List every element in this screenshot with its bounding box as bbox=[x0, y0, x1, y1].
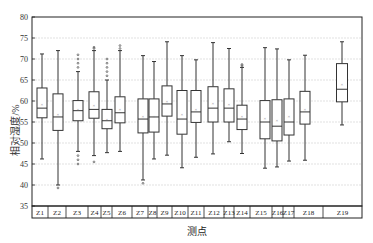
mean-marker-icon: × bbox=[153, 114, 156, 119]
box-plot-chart: ××××××××××××××××××× 35404550556065707580… bbox=[0, 0, 373, 243]
mean-marker-icon: × bbox=[93, 103, 96, 108]
outlier-point bbox=[77, 62, 79, 64]
x-category-label: Z8 bbox=[149, 209, 157, 217]
mean-marker-icon: × bbox=[341, 82, 344, 87]
outlier-point bbox=[241, 64, 243, 66]
x-category-label: Z5 bbox=[103, 209, 111, 217]
mean-marker-icon: × bbox=[304, 107, 307, 112]
y-axis-label: 相对湿度/% bbox=[9, 104, 21, 155]
x-category-label: Z14 bbox=[236, 209, 248, 217]
x-category-label: Z9 bbox=[161, 209, 169, 217]
x-category-label: Z6 bbox=[118, 209, 126, 217]
x-category-label: Z7 bbox=[136, 209, 144, 217]
x-category-label: Z2 bbox=[53, 209, 61, 217]
box-Z18: × bbox=[300, 55, 310, 160]
outlier-point bbox=[77, 67, 79, 69]
mean-marker-icon: × bbox=[166, 99, 169, 104]
outlier-point bbox=[106, 62, 108, 64]
outlier-point bbox=[93, 46, 95, 48]
x-category-label: Z13 bbox=[223, 209, 235, 217]
x-category-label: Z19 bbox=[337, 209, 349, 217]
x-category-label: Z11 bbox=[190, 209, 202, 217]
y-tick-label: 70 bbox=[20, 55, 28, 64]
box-Z8: × bbox=[149, 62, 159, 159]
box-Z14: × bbox=[237, 64, 247, 154]
x-category-label: Z3 bbox=[73, 209, 81, 217]
x-category-label: Z15 bbox=[255, 209, 267, 217]
x-category-label: Z10 bbox=[174, 209, 186, 217]
outlier-point bbox=[142, 182, 144, 184]
outlier-point bbox=[106, 67, 108, 69]
outlier-point bbox=[77, 54, 79, 56]
x-category-label: Z12 bbox=[208, 209, 220, 217]
x-category-label: Z17 bbox=[283, 209, 295, 217]
mean-marker-icon: × bbox=[276, 118, 279, 123]
x-category-label: Z16 bbox=[272, 209, 284, 217]
y-tick-label: 55 bbox=[20, 118, 28, 127]
box-series: ××××××××××××××××××× bbox=[37, 42, 348, 189]
y-tick-label: 35 bbox=[20, 202, 28, 211]
outlier-point bbox=[106, 75, 108, 77]
outlier-point bbox=[119, 45, 121, 47]
mean-marker-icon: × bbox=[106, 117, 109, 122]
outlier-point bbox=[77, 159, 79, 161]
y-tick-label: 40 bbox=[20, 181, 28, 190]
outlier-point bbox=[106, 71, 108, 73]
x-category-label: Z4 bbox=[91, 209, 99, 217]
box-Z4: × bbox=[89, 46, 99, 162]
mean-marker-icon: × bbox=[228, 102, 231, 107]
mean-marker-icon: × bbox=[41, 102, 44, 107]
x-category-table: Z1Z2Z3Z4Z5Z6Z7Z8Z9Z10Z11Z12Z13Z14Z15Z16Z… bbox=[32, 206, 362, 218]
box-Z17: × bbox=[284, 60, 294, 161]
y-tick-label: 50 bbox=[20, 139, 28, 148]
box-Z16: × bbox=[272, 49, 282, 167]
box-Z2: × bbox=[53, 51, 63, 189]
mean-marker-icon: × bbox=[288, 114, 291, 119]
x-category-label: Z1 bbox=[36, 209, 44, 217]
outlier-point bbox=[119, 48, 121, 50]
box-Z6: × bbox=[115, 45, 125, 152]
outlier-point bbox=[77, 155, 79, 157]
box-Z3: × bbox=[73, 54, 83, 165]
y-tick-label: 80 bbox=[20, 13, 28, 22]
mean-marker-icon: × bbox=[119, 107, 122, 112]
mean-marker-icon: × bbox=[77, 107, 80, 112]
mean-marker-icon: × bbox=[142, 114, 145, 119]
outlier-point bbox=[57, 187, 59, 189]
box-Z19: × bbox=[337, 42, 348, 125]
box-Z5: × bbox=[102, 58, 112, 153]
x-axis-label: 测点 bbox=[187, 225, 207, 237]
outlier-point bbox=[93, 161, 95, 163]
mean-marker-icon: × bbox=[57, 112, 60, 117]
mean-marker-icon: × bbox=[195, 107, 198, 112]
y-tick-label: 45 bbox=[20, 160, 28, 169]
mean-marker-icon: × bbox=[181, 112, 184, 117]
mean-marker-icon: × bbox=[264, 116, 267, 121]
y-tick-label: 60 bbox=[20, 97, 28, 106]
box-Z10: × bbox=[177, 56, 187, 168]
mean-marker-icon: × bbox=[212, 101, 215, 106]
box-Z7: × bbox=[138, 56, 148, 185]
y-tick-label: 65 bbox=[20, 76, 28, 85]
mean-marker-icon: × bbox=[241, 114, 244, 119]
x-category-label: Z18 bbox=[303, 209, 315, 217]
y-tick-label: 75 bbox=[20, 34, 28, 43]
box-Z15: × bbox=[260, 48, 270, 169]
box-Z13: × bbox=[224, 49, 234, 142]
y-axis-ticks: 35404550556065707580 bbox=[20, 13, 35, 211]
